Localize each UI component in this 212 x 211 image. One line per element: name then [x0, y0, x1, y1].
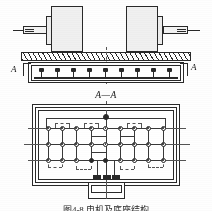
right-shaft — [163, 26, 188, 34]
step-r2r3-b — [120, 136, 134, 137]
right-shaft-hatch-2 — [177, 31, 186, 32]
jumper-row1-b-l — [84, 123, 85, 128]
top-bracket-left — [46, 118, 105, 119]
section-label-right: A — [191, 63, 197, 72]
technical-drawing-figure: A A A—A — [0, 0, 212, 211]
figure-caption: 图4-8 电机及底座结构 — [0, 203, 212, 211]
terminal-pad — [112, 175, 120, 180]
right-machine-body — [126, 6, 158, 52]
grid-node-dot — [133, 159, 135, 161]
left-shaft — [23, 26, 48, 34]
grid-node-dot — [147, 143, 149, 145]
jumper-row1-c — [127, 123, 141, 124]
base-rail-line — [34, 77, 178, 79]
grid-node-dot — [162, 159, 164, 161]
grid-node-dot — [75, 127, 77, 129]
top-bracket-right — [106, 118, 166, 119]
grid-node-dot — [47, 159, 49, 161]
terminal-pad — [93, 175, 101, 180]
grid-node-dot — [75, 143, 77, 145]
grid-node-dot — [133, 143, 135, 145]
jumper-row1-c-r — [141, 123, 142, 128]
jumper-row1-a-l — [55, 123, 56, 128]
jumper-row1-a — [55, 123, 69, 124]
terminal-pad — [103, 175, 111, 180]
jumper-row1-b-r — [98, 123, 99, 128]
jumper-row3-b — [76, 169, 91, 170]
right-shaft-hatch-1 — [177, 29, 186, 30]
grid-node-dot — [61, 127, 63, 129]
jumper-row1-c-l — [127, 123, 128, 128]
grid-node-dot — [61, 159, 63, 161]
grid-node-dot — [119, 127, 121, 129]
grid-node-dot — [90, 127, 92, 129]
grid-node-dot — [147, 127, 149, 129]
grid-node — [103, 158, 108, 163]
jumper-row1-a-r — [69, 123, 70, 128]
grid-node — [89, 158, 94, 163]
elevation-view: A A — [0, 0, 212, 92]
section-marker-left — [21, 63, 37, 79]
grid-node-dot — [61, 143, 63, 145]
grid-node-dot — [75, 159, 77, 161]
left-shaft-hatch-1 — [25, 29, 34, 30]
terminal-block-inner — [91, 185, 122, 193]
grid-node-dot — [119, 143, 121, 145]
section-view-a-a: A—A — [0, 90, 212, 211]
grid-node-dot — [162, 143, 164, 145]
grid-node-dot — [90, 143, 92, 145]
step-r2r3 — [91, 152, 106, 153]
col-link — [106, 116, 107, 160]
grid-node-dot — [133, 127, 135, 129]
grid-node-dot — [47, 127, 49, 129]
jumper-row3-d — [148, 167, 163, 168]
grid-node-dot — [147, 159, 149, 161]
section-view-title: A—A — [0, 90, 212, 100]
section-label-left: A — [11, 65, 17, 74]
jumper-row1-b — [84, 123, 98, 124]
grid-node-dot — [47, 143, 49, 145]
terminal-block-centerline — [106, 182, 107, 199]
step-r1r2 — [91, 136, 106, 137]
jumper-row3-c — [120, 169, 134, 170]
left-machine-body — [51, 6, 83, 52]
grid-node-dot — [162, 127, 164, 129]
left-shaft-hatch-2 — [25, 31, 34, 32]
grid-node-dot — [119, 159, 121, 161]
jumper-row3-a — [48, 167, 62, 168]
top-center-node — [103, 114, 109, 120]
